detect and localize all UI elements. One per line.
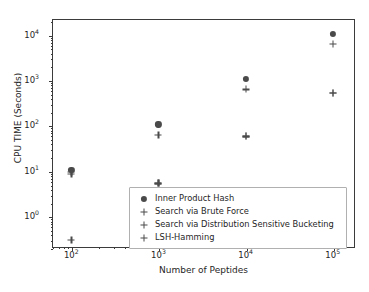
y-tick-minor (51, 235, 53, 236)
y-tick-minor (51, 140, 53, 141)
y-tick-minor (51, 231, 53, 232)
y-tick-minor (51, 179, 53, 180)
y-tick-minor (51, 105, 53, 106)
y-tick-minor (51, 249, 53, 250)
x-tick-label: 105 (325, 251, 340, 260)
y-tick-minor (51, 43, 53, 44)
y-tick-major (49, 172, 53, 173)
data-point-marker (329, 40, 336, 47)
x-tick-minor (99, 247, 100, 249)
data-point-marker (68, 237, 75, 244)
y-tick-minor (51, 204, 53, 205)
y-tick-minor (51, 190, 53, 191)
legend-marker-glyph (141, 234, 148, 241)
legend-marker-glyph (141, 221, 148, 228)
y-tick-minor (51, 182, 53, 183)
y-tick-minor (51, 219, 53, 220)
x-tick-minor (59, 247, 60, 249)
y-tick-minor (51, 95, 53, 96)
y-tick-major (49, 217, 53, 218)
y-tick-minor (51, 131, 53, 132)
legend-plus-icon (135, 218, 155, 231)
y-tick-minor (51, 227, 53, 228)
y-tick-major (49, 126, 53, 127)
x-tick-minor (114, 247, 115, 249)
y-tick-minor (51, 174, 53, 175)
y-tick-minor (51, 99, 53, 100)
y-tick-minor (51, 83, 53, 84)
y-tick-minor (51, 150, 53, 151)
legend-item-label: Inner Product Hash (155, 194, 234, 202)
legend-plus-icon (135, 231, 155, 244)
y-tick-minor (51, 22, 53, 23)
y-tick-minor (51, 88, 53, 89)
x-tick-minor (53, 247, 54, 249)
y-tick-minor (51, 222, 53, 223)
x-tick-label: 104 (238, 251, 253, 260)
legend-item-label: Search via Distribution Sensitive Bucket… (155, 220, 334, 228)
legend-item-label: Search via Brute Force (155, 207, 249, 215)
y-tick-minor (51, 113, 53, 114)
x-axis-label: Number of Peptides (52, 265, 355, 275)
y-tick-minor (51, 186, 53, 187)
legend-item: Search via Brute Force (135, 205, 340, 218)
data-point-marker (242, 133, 249, 140)
y-tick-major (49, 81, 53, 82)
y-tick-minor (51, 85, 53, 86)
y-tick-minor (51, 54, 53, 55)
legend-marker-glyph (141, 195, 147, 201)
y-tick-minor (51, 46, 53, 47)
y-tick-minor (51, 49, 53, 50)
legend-item-label: LSH-Hamming (155, 233, 214, 241)
y-tick-minor (51, 196, 53, 197)
legend-circle-icon (135, 192, 155, 205)
y-tick-minor (51, 136, 53, 137)
y-tick-label: 102 (24, 121, 39, 130)
y-tick-label: 104 (24, 30, 39, 39)
legend-item: LSH-Hamming (135, 231, 340, 244)
x-tick-label: 103 (151, 251, 166, 260)
scatter-chart-figure: 102103104105100101102103104 Number of Pe… (0, 0, 369, 292)
data-point-marker (329, 89, 336, 96)
data-point-marker (242, 86, 249, 93)
y-tick-minor (51, 40, 53, 41)
x-tick-label: 102 (64, 251, 79, 260)
legend-marker-glyph (141, 208, 148, 215)
y-tick-minor (51, 59, 53, 60)
y-tick-minor (51, 38, 53, 39)
y-axis-label: CPU TIME (Seconds) (13, 8, 23, 228)
y-tick-minor (51, 158, 53, 159)
x-tick-minor (125, 247, 126, 249)
chart-legend: Inner Product HashSearch via Brute Force… (129, 187, 347, 249)
x-tick-minor (68, 247, 69, 249)
y-tick-label: 101 (24, 167, 39, 176)
legend-item: Inner Product Hash (135, 192, 340, 205)
y-tick-label: 103 (24, 76, 39, 85)
data-point-marker (155, 131, 162, 138)
y-tick-major (49, 36, 53, 37)
y-tick-minor (51, 128, 53, 129)
x-tick-minor (64, 247, 65, 249)
y-tick-minor (51, 133, 53, 134)
data-point-marker (155, 180, 162, 187)
y-tick-minor (51, 241, 53, 242)
y-tick-minor (51, 176, 53, 177)
y-tick-minor (51, 144, 53, 145)
y-tick-label: 100 (24, 212, 39, 221)
y-tick-minor (51, 91, 53, 92)
y-tick-minor (51, 224, 53, 225)
legend-item: Search via Distribution Sensitive Bucket… (135, 218, 340, 231)
y-tick-minor (51, 67, 53, 68)
data-point-marker (68, 168, 75, 175)
legend-plus-icon (135, 205, 155, 218)
